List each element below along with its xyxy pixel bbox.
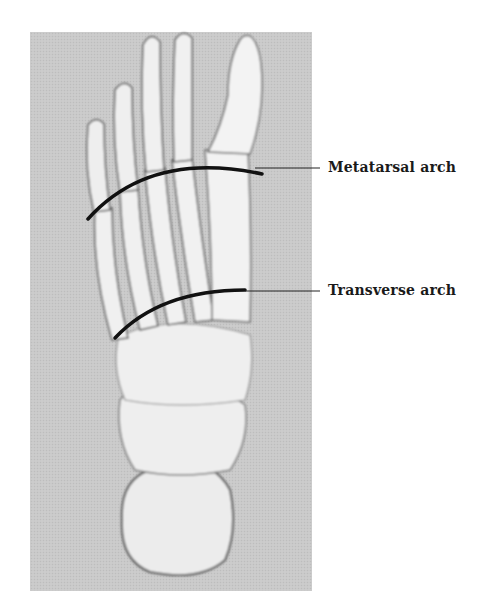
big-toe <box>208 36 262 155</box>
foot-arches-figure: Metatarsal arch Transverse arch <box>0 0 498 598</box>
tarsal-bones <box>116 324 252 405</box>
toe-3 <box>142 37 164 172</box>
metatarsal-1 <box>205 150 251 322</box>
metatarsal-arch-label: Metatarsal arch <box>328 159 456 175</box>
calcaneus-bone <box>122 462 233 575</box>
toe-4 <box>114 83 138 192</box>
toe-5 <box>87 120 110 212</box>
bones <box>87 33 262 575</box>
foot-skeleton-illustration <box>0 0 498 598</box>
toe-2 <box>173 33 192 162</box>
transverse-arch-label: Transverse arch <box>328 282 456 298</box>
